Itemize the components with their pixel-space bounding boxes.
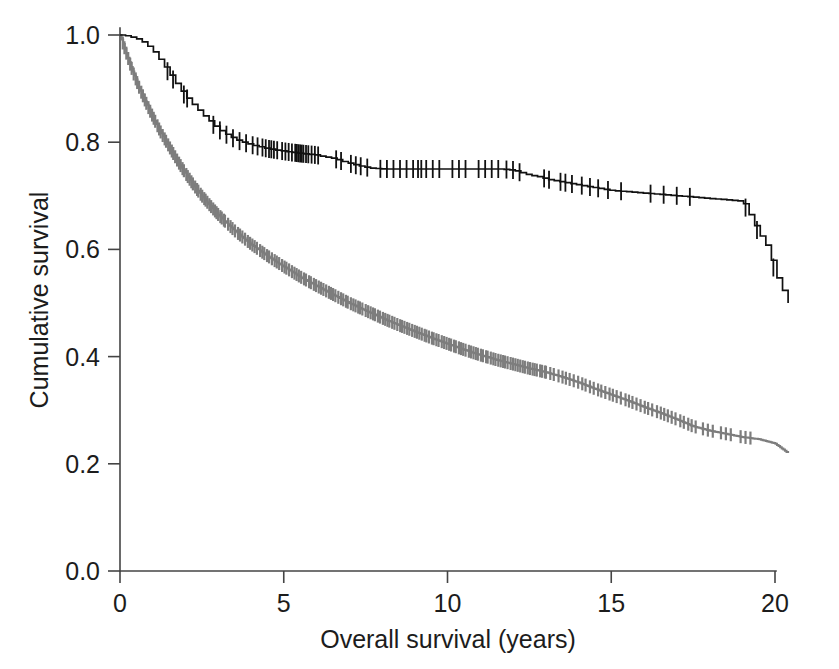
y-tick-label: 1.0 <box>65 21 100 49</box>
kaplan-meier-plot: 0.00.20.40.60.81.0 05101520 Overall surv… <box>0 0 839 669</box>
x-tick-label: 20 <box>761 589 789 617</box>
x-tick-label: 10 <box>434 589 462 617</box>
x-tick-label: 0 <box>113 589 127 617</box>
x-axis-tick-labels: 05101520 <box>113 589 789 617</box>
x-axis-ticks <box>120 571 775 583</box>
y-tick-label: 0.8 <box>65 128 100 156</box>
series-layer <box>120 35 788 453</box>
y-axis-title: Cumulative survival <box>25 192 53 409</box>
survival-chart-figure: 0.00.20.40.60.81.0 05101520 Overall surv… <box>0 0 839 669</box>
lower-curve-censor-marks <box>123 36 751 444</box>
lower-survival-curve <box>120 35 788 453</box>
y-axis-ticks <box>108 35 120 571</box>
y-tick-label: 0.6 <box>65 235 100 263</box>
x-tick-label: 15 <box>597 589 625 617</box>
upper-survival-curve <box>120 35 788 303</box>
y-axis-tick-labels: 0.00.20.40.60.81.0 <box>65 21 100 585</box>
y-tick-label: 0.2 <box>65 450 100 478</box>
y-tick-label: 0.4 <box>65 343 100 371</box>
y-tick-label: 0.0 <box>65 557 100 585</box>
x-tick-label: 5 <box>277 589 291 617</box>
x-axis-title: Overall survival (years) <box>320 625 576 653</box>
